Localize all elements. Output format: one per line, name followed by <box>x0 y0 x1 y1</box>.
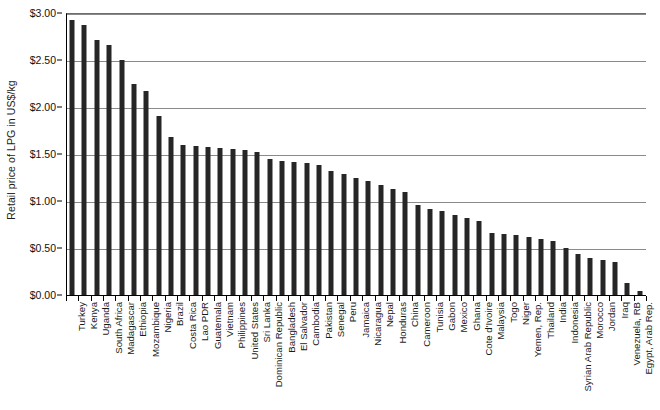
x-axis-tick-label: Dominican Republic <box>273 217 284 302</box>
x-axis-tick-mark <box>66 296 67 301</box>
x-axis-tick-label-text: Costa Rica <box>187 302 198 349</box>
x-axis-tick-label: Nicaragua <box>372 258 383 302</box>
x-axis-tick-label: Yemen, Rep. <box>532 247 543 302</box>
bar-slot <box>177 13 189 295</box>
bar-slot <box>78 13 90 295</box>
lpg-retail-price-bar-chart: Retail price of LPG in US$/kg $0.00$0.50… <box>0 0 660 410</box>
bar-slot <box>350 13 362 295</box>
y-axis-tick-mark <box>57 13 62 14</box>
bar <box>181 145 186 295</box>
bar-slot <box>510 13 522 295</box>
x-axis-tick-label-text: Indonesia <box>569 302 580 344</box>
bar-slot <box>375 13 387 295</box>
x-axis-tick-label-text: Gabon <box>446 302 457 331</box>
x-axis-tick-label-text: Kenya <box>88 302 99 329</box>
x-axis-tick-label: Philippines <box>236 256 247 302</box>
x-axis-tick-label-text: South Africa <box>113 302 124 354</box>
x-axis-tick-label: Thailand <box>545 265 556 302</box>
x-axis-tick-label: Madagascar <box>125 249 136 302</box>
x-axis-tick-label: Senegal <box>335 267 346 302</box>
bar-slot <box>226 13 238 295</box>
bar-slot <box>424 13 436 295</box>
y-axis-tick-mark <box>57 107 62 108</box>
x-axis-tick-label-text: Senegal <box>335 302 346 337</box>
x-axis-tick-label-text: Tunisia <box>434 302 445 333</box>
bar-slot <box>313 13 325 295</box>
x-axis-tick-label: Ethiopia <box>137 267 148 302</box>
x-axis-tick-label: Tunisia <box>434 271 445 302</box>
x-axis-tick-label-text: Thailand <box>545 302 556 339</box>
x-axis-tick-label-text: Egypt, Arab Rep. <box>643 302 654 375</box>
x-axis-tick-label-text: Peru <box>347 302 358 322</box>
x-axis-tick-label: Indonesia <box>569 260 580 302</box>
bar-slot <box>597 13 609 295</box>
x-axis-tick-label: Niger <box>520 279 531 302</box>
y-axis-tick-label: $2.50 <box>30 54 56 66</box>
x-axis-tick-label: Mozambique <box>150 247 161 302</box>
x-axis-tick-label: Morocco <box>594 265 605 302</box>
bar <box>94 40 99 295</box>
y-axis-tick-label: $3.00 <box>30 7 56 19</box>
bar-slot <box>560 13 572 295</box>
x-axis-tick-label: Malaysia <box>495 264 506 302</box>
y-axis-tick-mark <box>57 154 62 155</box>
x-axis-tick-label: Pakistan <box>323 265 334 302</box>
x-axis-tick-label: Kenya <box>88 275 99 302</box>
x-axis-tick-label-text: Jamaica <box>360 302 371 338</box>
x-axis-tick-label-text: United States <box>249 302 260 360</box>
x-axis-tick-label: Turkey <box>76 273 87 302</box>
x-axis-tick-label-text: India <box>557 302 568 323</box>
y-axis-tick-label: $0.00 <box>30 289 56 301</box>
x-axis-tick-label-text: Lao PDR <box>199 302 210 341</box>
bar-slot <box>189 13 201 295</box>
bar <box>82 25 87 295</box>
x-axis-tick-label-text: Nigeria <box>162 302 173 332</box>
x-axis-tick-label-text: Turkey <box>76 302 87 331</box>
x-axis-tick-label: Iraq <box>619 285 630 302</box>
bar <box>70 20 75 295</box>
x-axis-tick-label-text: Venezuela, RB <box>631 302 642 365</box>
x-axis-tick-label-text: Guatemala <box>212 302 223 349</box>
y-axis-tick-mark <box>57 248 62 249</box>
x-axis-tick-label: Gabon <box>446 273 457 302</box>
x-axis-tick-label: Cote d'Ivoire <box>483 248 494 302</box>
x-axis-tick-label-text: Bangladesh <box>286 302 297 353</box>
x-axis-tick-label: South Africa <box>113 250 124 302</box>
x-axis-tick-label-text: Syrian Arab Republic <box>582 302 593 392</box>
x-axis-tick-label: Nepal <box>384 277 395 302</box>
x-axis-tick-label-text: El Salvador <box>298 302 309 351</box>
x-axis-tick-label-text: Brazil <box>174 302 185 326</box>
bar-slot <box>412 13 424 295</box>
x-axis-tick-label-text: Uganda <box>100 302 111 336</box>
bar-slot <box>547 13 559 295</box>
bar-slot <box>362 13 374 295</box>
bar-slot <box>399 13 411 295</box>
x-axis-tick-label: Nigeria <box>162 272 173 302</box>
x-axis-tick-label-text: Vietnam <box>224 302 235 337</box>
x-axis-tick-label: Togo <box>508 281 519 302</box>
x-axis-tick-label: India <box>557 281 568 302</box>
y-axis-tick-labels: $0.00$0.50$1.00$1.50$2.00$2.50$3.00 <box>20 0 62 310</box>
bar-slot <box>91 13 103 295</box>
bar-slot <box>436 13 448 295</box>
x-axis-tick-label-text: Philippines <box>236 302 247 348</box>
x-axis-tick-label-text: Togo <box>508 302 519 323</box>
x-axis-tick-label: Brazil <box>174 278 185 302</box>
x-axis-tick-label: Venezuela, RB <box>631 239 642 302</box>
x-axis-tick-label: Sri Lanka <box>261 261 272 302</box>
x-axis-tick-label: Jamaica <box>360 266 371 302</box>
x-axis-tick-label-text: Cameroon <box>421 302 432 347</box>
x-axis-tick-label-text: China <box>409 302 420 327</box>
y-axis-tick-mark <box>57 201 62 202</box>
x-axis-tick-label-text: Dominican Republic <box>273 302 284 387</box>
bar-slot <box>202 13 214 295</box>
y-axis-tick-label: $1.50 <box>30 148 56 160</box>
x-axis-tick-label-text: Honduras <box>397 302 408 344</box>
x-axis-tick-label-text: Nicaragua <box>372 302 383 346</box>
x-axis-tick-label-text: Ghana <box>471 302 482 331</box>
bar <box>353 178 358 296</box>
x-axis-tick-label: Uganda <box>100 268 111 302</box>
bar-slot <box>214 13 226 295</box>
bar-slot <box>387 13 399 295</box>
x-axis-tick-label: Costa Rica <box>187 255 198 302</box>
